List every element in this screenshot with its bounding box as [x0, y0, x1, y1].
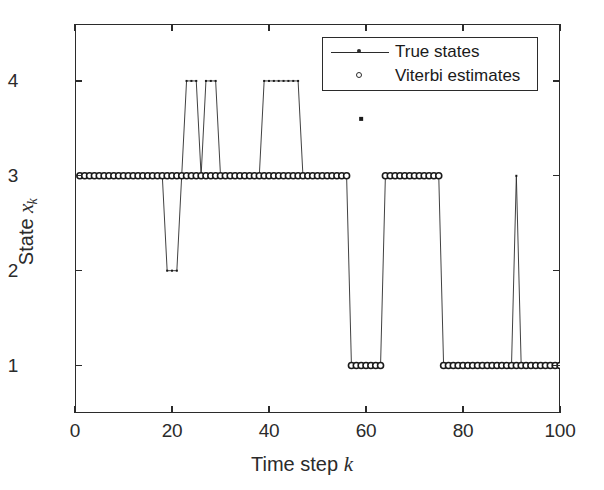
x-tick-label-0: 0 [70, 420, 80, 442]
x-tick-top-100 [559, 24, 560, 31]
y-tick-3 [75, 175, 82, 176]
x-tick-20 [171, 406, 172, 413]
series-viterbi-estimates-markers [77, 173, 560, 369]
y-axis-title: State xk [14, 112, 41, 352]
x-tick-top-80 [462, 24, 463, 31]
x-tick-top-0 [74, 24, 75, 31]
y-tick-label-1: 1 [8, 355, 18, 377]
y-axis-title-subscript: k [26, 198, 41, 204]
legend-entry-viterbi-estimates: Viterbi estimates [323, 63, 537, 89]
series-true-states-markers [79, 80, 560, 367]
y-tick-4 [75, 80, 82, 81]
y-tick-1 [75, 365, 82, 366]
y-axis-title-text: State [15, 213, 37, 265]
legend-label-true-states: True states [395, 42, 479, 62]
legend-entry-true-states: True states [323, 39, 537, 65]
x-axis-title-variable: k [344, 452, 353, 476]
y-tick-right-4 [553, 80, 560, 81]
x-axis-title: Time step k [0, 452, 604, 477]
stray-marker-group [359, 117, 363, 121]
x-tick-label-40: 40 [259, 420, 280, 442]
x-tick-top-40 [268, 24, 269, 31]
x-axis-title-text: Time step [251, 453, 344, 475]
x-tick-40 [268, 406, 269, 413]
x-tick-80 [462, 406, 463, 413]
y-axis-title-variable: x [14, 204, 38, 213]
x-tick-top-60 [365, 24, 366, 31]
x-tick-label-100: 100 [544, 420, 575, 442]
y-tick-right-2 [553, 270, 560, 271]
x-tick-0 [74, 406, 75, 413]
x-tick-top-20 [171, 24, 172, 31]
y-tick-2 [75, 270, 82, 271]
x-tick-100 [559, 406, 560, 413]
legend-label-viterbi-estimates: Viterbi estimates [395, 66, 520, 86]
x-tick-label-80: 80 [453, 420, 474, 442]
x-tick-label-60: 60 [356, 420, 377, 442]
legend-open-circle-icon [323, 65, 395, 87]
x-tick-label-20: 20 [162, 420, 183, 442]
legend-box: True states Viterbi estimates [322, 37, 538, 91]
y-tick-label-4: 4 [8, 70, 18, 92]
y-tick-right-3 [553, 175, 560, 176]
x-tick-60 [365, 406, 366, 413]
figure-plot-area: 0204060801001234 True states Viterbi est… [0, 0, 604, 490]
legend-line-dot-icon [323, 41, 395, 63]
series-true-states [80, 81, 560, 366]
y-tick-right-1 [553, 365, 560, 366]
